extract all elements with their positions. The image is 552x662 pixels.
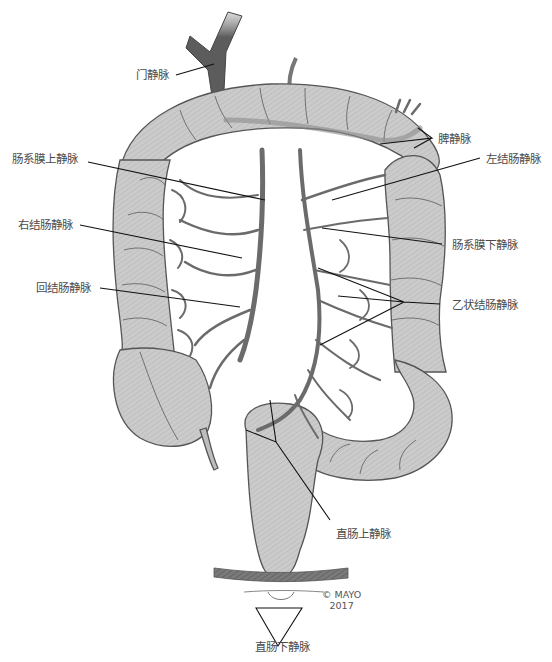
- label-splenic-vein: 脾静脉: [438, 132, 471, 146]
- label-right-colic-vein: 右结肠静脉: [18, 218, 73, 232]
- anatomy-illustration: [0, 0, 552, 662]
- copyright: © MAYO 2017: [322, 589, 361, 611]
- label-ileocolic-vein: 回结肠静脉: [36, 281, 91, 295]
- label-superior-mesenteric-vein: 肠系膜上静脉: [12, 152, 78, 166]
- label-left-colic-vein: 左结肠静脉: [486, 152, 541, 166]
- label-sigmoid-veins: 乙状结肠静脉: [452, 298, 518, 312]
- label-superior-rectal-vein: 直肠上静脉: [336, 527, 391, 541]
- colon: [113, 84, 452, 580]
- label-inferior-rectal-vein: 直肠下静脉: [255, 640, 310, 654]
- copyright-line1: © MAYO: [322, 589, 361, 600]
- copyright-line2: 2017: [322, 600, 361, 611]
- label-inferior-mesenteric-vein: 肠系膜下静脉: [452, 238, 518, 252]
- label-portal-vein: 门静脉: [136, 68, 169, 82]
